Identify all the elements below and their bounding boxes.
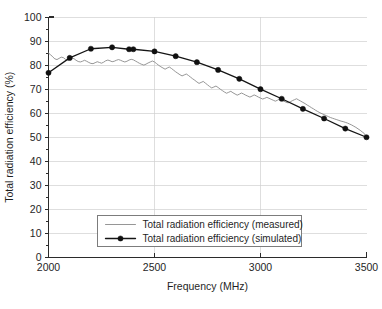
series-marker-simulated: [343, 126, 348, 131]
series-marker-simulated: [110, 45, 115, 50]
series-line-simulated: [49, 47, 367, 137]
y-tick-label: 10: [30, 227, 42, 239]
x-tick-label: 3000: [249, 261, 273, 273]
series-marker-simulated: [88, 46, 93, 51]
y-tick-label: 60: [30, 107, 42, 119]
series-marker-simulated: [194, 60, 199, 65]
legend-label: Total radiation efficiency (simulated): [143, 233, 302, 244]
y-tick-label: 40: [30, 155, 42, 167]
y-tick-label: 100: [24, 11, 42, 23]
series-marker-simulated: [279, 96, 284, 101]
series-marker-simulated: [216, 67, 221, 72]
y-tick-label: 80: [30, 59, 42, 71]
series-marker-simulated: [364, 135, 369, 140]
x-tick-label: 2500: [143, 261, 167, 273]
series-marker-simulated: [173, 54, 178, 59]
y-tick-label: 30: [30, 179, 42, 191]
series-marker-simulated: [300, 106, 305, 111]
y-axis-title: Total radiation efficiency (%): [3, 72, 15, 203]
series-marker-simulated: [67, 55, 72, 60]
x-axis-title: Frequency (MHz): [167, 280, 248, 292]
series-marker-simulated: [131, 47, 136, 52]
series-marker-simulated: [258, 87, 263, 92]
series-marker-simulated: [152, 49, 157, 54]
radiation-efficiency-chart: 01020304050607080901002000250030003500 F…: [0, 0, 382, 309]
y-tick-label: 50: [30, 131, 42, 143]
y-tick-label: 90: [30, 35, 42, 47]
series-marker-simulated: [237, 76, 242, 81]
x-tick-label: 2000: [37, 261, 61, 273]
chart-legend: Total radiation efficiency (measured)Tot…: [98, 216, 303, 247]
y-tick-label: 70: [30, 83, 42, 95]
series-marker-simulated: [46, 70, 51, 75]
series-layer: [46, 45, 369, 140]
series-marker-simulated: [322, 116, 327, 121]
x-tick-label: 3500: [355, 261, 379, 273]
y-tick-label: 20: [30, 203, 42, 215]
legend-marker-simulated: [118, 236, 123, 241]
legend-label: Total radiation efficiency (measured): [143, 219, 303, 230]
chart-figure: 01020304050607080901002000250030003500 F…: [0, 0, 382, 309]
